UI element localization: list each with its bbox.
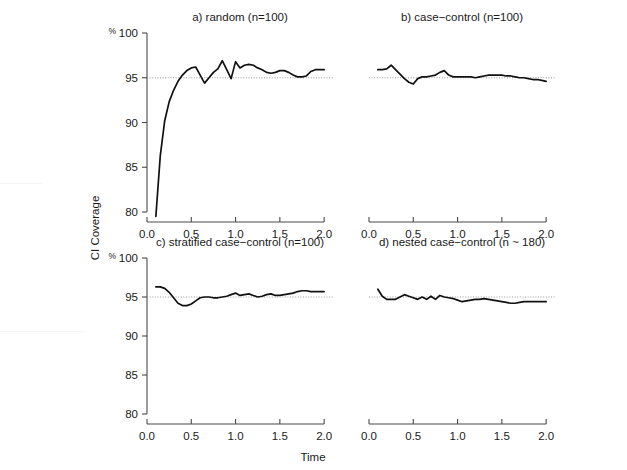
y-tick-label-a-3: 95 [125,72,138,84]
panel-b: b) case−control (n=100)0.00.51.01.52.0 [361,11,555,240]
plot-svg: a) random (n=100)80859095100%0.00.51.01.… [0,0,627,470]
x-tick-label-d-4: 2.0 [538,430,554,442]
y-tick-label-c-1: 85 [125,369,138,381]
panel-d: d) nested case−control (n ~ 180)0.00.51.… [361,236,555,442]
edge-artifact-mid [0,331,86,332]
x-tick-label-c-0: 0.0 [139,430,155,442]
x-tick-label-d-0: 0.0 [361,430,377,442]
y-tick-label-c-2: 90 [125,330,138,342]
x-axis-title: Time [300,451,325,463]
series-line-c [156,287,324,306]
x-tick-label-c-2: 1.0 [228,430,244,442]
percent-symbol-c: % [108,251,116,261]
x-tick-label-c-3: 1.5 [272,430,288,442]
x-tick-label-c-4: 2.0 [316,430,332,442]
edge-artifact-top [0,183,42,184]
figure-container: a) random (n=100)80859095100%0.00.51.01.… [0,0,627,470]
panel-title-c: c) stratified case−control (n=100) [156,236,324,248]
y-tick-label-c-0: 80 [125,408,138,420]
x-tick-label-d-1: 0.5 [405,430,421,442]
y-tick-label-c-4: 100 [119,252,138,264]
panel-title-b: b) case−control (n=100) [401,11,523,23]
y-tick-label-a-2: 90 [125,117,138,129]
percent-symbol-a: % [108,26,116,36]
series-line-b [378,65,546,84]
y-tick-label-a-1: 85 [125,161,138,173]
panel-title-a: a) random (n=100) [192,11,288,23]
panel-title-d: d) nested case−control (n ~ 180) [379,236,545,248]
panel-a: a) random (n=100)80859095100%0.00.51.01.… [108,11,333,240]
x-tick-label-d-3: 1.5 [494,430,510,442]
y-axis-title: CI Coverage [89,196,101,261]
x-tick-label-b-0: 0.0 [361,228,377,240]
series-line-a [156,61,324,217]
x-tick-label-c-1: 0.5 [183,430,199,442]
y-tick-label-c-3: 95 [125,291,138,303]
series-line-d [378,289,546,303]
x-tick-label-a-0: 0.0 [139,228,155,240]
panel-c: c) stratified case−control (n=100)808590… [108,236,333,442]
y-tick-label-a-0: 80 [125,206,138,218]
x-tick-label-d-2: 1.0 [450,430,466,442]
y-tick-label-a-4: 100 [119,27,138,39]
